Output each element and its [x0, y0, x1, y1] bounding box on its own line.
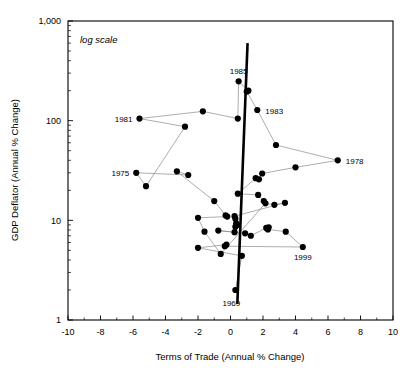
data-point	[223, 242, 229, 248]
x-tick-label: 2	[260, 327, 265, 337]
data-point	[201, 229, 207, 235]
point-label-1975: 1975	[111, 169, 129, 178]
data-point	[262, 200, 268, 206]
data-point	[136, 115, 142, 121]
data-point	[174, 168, 180, 174]
data-point	[259, 170, 265, 176]
data-point	[182, 124, 188, 130]
data-point	[255, 192, 261, 198]
point-label-1978: 1978	[346, 157, 364, 166]
data-point	[283, 229, 289, 235]
y-tick-label: 1,000	[38, 16, 61, 26]
y-tick-label: 100	[46, 116, 61, 126]
point-label-1969: 1969	[222, 299, 240, 308]
x-tick-label: 8	[358, 327, 363, 337]
x-tick-label: 0	[228, 327, 233, 337]
scatter-chart: 1975198119851983197819991969 -10-8-6-4-2…	[0, 0, 417, 376]
x-tick-label: -4	[161, 327, 169, 337]
data-point	[244, 88, 250, 94]
y-axis-title: GDP Deflator (Annual % Change)	[9, 99, 20, 241]
y-tick-label: 10	[51, 216, 61, 226]
data-point	[211, 198, 217, 204]
data-point	[248, 233, 254, 239]
x-tick-label: 4	[293, 327, 298, 337]
data-point	[253, 175, 259, 181]
data-point	[200, 108, 206, 114]
point-label-1999: 1999	[294, 253, 312, 262]
data-point	[195, 245, 201, 251]
x-axis-title: Terms of Trade (Annual % Change)	[156, 351, 305, 362]
log-scale-note: log scale	[80, 34, 118, 45]
x-tick-label: -8	[96, 327, 104, 337]
data-point	[236, 78, 242, 84]
data-point	[232, 287, 238, 293]
x-tick-label: -10	[61, 327, 74, 337]
point-label-1981: 1981	[115, 115, 133, 124]
data-point	[195, 215, 201, 221]
data-point	[271, 202, 277, 208]
data-point	[265, 226, 271, 232]
x-tick-label: -2	[194, 327, 202, 337]
data-point	[235, 191, 241, 197]
data-point	[242, 230, 248, 236]
data-point	[273, 142, 279, 148]
data-point	[185, 172, 191, 178]
data-point	[133, 170, 139, 176]
data-point	[300, 244, 306, 250]
point-label-1985: 1985	[230, 67, 248, 76]
data-point	[235, 115, 241, 121]
data-point	[232, 224, 238, 230]
x-tick-label: 6	[325, 327, 330, 337]
data-point	[215, 227, 221, 233]
point-label-1983: 1983	[265, 107, 283, 116]
data-point	[223, 212, 229, 218]
data-point	[282, 200, 288, 206]
data-point	[335, 157, 341, 163]
data-point	[143, 183, 149, 189]
y-tick-label: 1	[56, 315, 61, 325]
data-point	[254, 107, 260, 113]
data-point	[239, 253, 245, 259]
data-point	[231, 229, 237, 235]
data-point	[292, 164, 298, 170]
x-tick-label: -6	[129, 327, 137, 337]
data-point	[218, 251, 224, 257]
x-tick-label: 10	[388, 327, 398, 337]
